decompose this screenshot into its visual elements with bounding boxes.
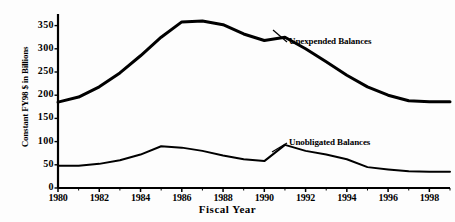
x-axis-title: Fiscal Year [0, 203, 455, 215]
x-tick-label: 1982 [77, 192, 121, 203]
x-tick-label: 1998 [407, 192, 451, 203]
x-tick-label: 1986 [160, 192, 204, 203]
x-tick-label: 1996 [366, 192, 410, 203]
x-tick-label: 1994 [325, 192, 369, 203]
x-tick-label: 1990 [242, 192, 286, 203]
x-tick-label: 1988 [201, 192, 245, 203]
series-label-unexpended-balances: Unexpended Balances [289, 36, 371, 46]
series-label-unobligated-balances: Unobligated Balances [289, 137, 370, 147]
x-axis-tick-labels: 1980198219841986198819901992199419961998 [0, 0, 455, 222]
x-tick-label: 1984 [119, 192, 163, 203]
chart-figure: Constant FY98 $ in Billions 050100150200… [0, 0, 455, 222]
x-tick-label: 1980 [36, 192, 80, 203]
x-tick-label: 1992 [284, 192, 328, 203]
